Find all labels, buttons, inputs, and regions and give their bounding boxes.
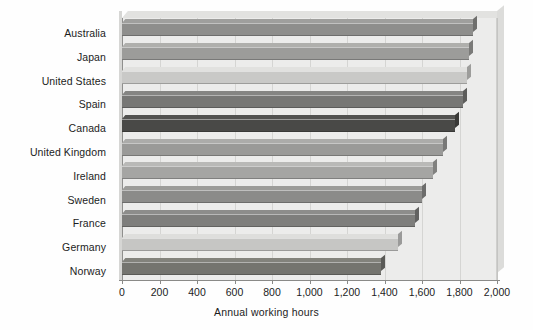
gridline-2000 xyxy=(497,18,498,280)
bar-row xyxy=(122,23,497,36)
x-tick-label-1600: 1,600 xyxy=(409,286,435,298)
bar-japan[interactable] xyxy=(122,47,469,60)
bar-sweden[interactable] xyxy=(122,190,422,203)
y-axis-label-canada: Canada xyxy=(0,123,106,134)
y-axis-label-united-states: United States xyxy=(0,76,106,87)
bar-end-cap xyxy=(469,40,473,56)
bar-row xyxy=(122,95,497,108)
bar-end-cap xyxy=(381,254,385,270)
x-tick-label-800: 800 xyxy=(263,286,281,298)
plot-right-face xyxy=(497,5,504,273)
x-tick-1200 xyxy=(347,280,348,284)
bar-end-cap xyxy=(422,183,426,199)
bar-end-cap xyxy=(443,135,447,151)
bar-end-cap xyxy=(463,88,467,104)
bar-end-cap xyxy=(467,64,471,80)
bar-end-cap xyxy=(473,16,477,32)
x-tick-label-2000: 2,000 xyxy=(484,286,510,298)
x-tick-2000 xyxy=(497,280,498,284)
bar-row xyxy=(122,214,497,227)
bar-end-cap xyxy=(433,159,437,175)
bar-united-kingdom[interactable] xyxy=(122,143,443,156)
x-tick-600 xyxy=(235,280,236,284)
bars-layer xyxy=(122,18,497,280)
y-axis-category-labels: AustraliaJapanUnited StatesSpainCanadaUn… xyxy=(0,22,114,278)
bar-spain[interactable] xyxy=(122,95,463,108)
bar-end-cap xyxy=(415,207,419,223)
x-tick-label-400: 400 xyxy=(188,286,206,298)
bar-canada[interactable] xyxy=(122,119,455,132)
x-tick-1400 xyxy=(385,280,386,284)
y-axis-label-australia: Australia xyxy=(0,28,106,39)
bar-australia[interactable] xyxy=(122,23,473,36)
x-tick-200 xyxy=(160,280,161,284)
bar-row xyxy=(122,143,497,156)
y-axis-label-ireland: Ireland xyxy=(0,171,106,182)
y-axis-label-spain: Spain xyxy=(0,99,106,110)
bar-row xyxy=(122,190,497,203)
x-tick-1600 xyxy=(422,280,423,284)
y-axis-label-united-kingdom: United Kingdom xyxy=(0,147,106,158)
x-tick-label-1400: 1,400 xyxy=(371,286,397,298)
bar-row xyxy=(122,166,497,179)
plot-top-face xyxy=(122,11,503,18)
bar-germany[interactable] xyxy=(122,238,398,251)
x-tick-label-1800: 1,800 xyxy=(446,286,472,298)
plot-area xyxy=(122,18,497,280)
x-tick-400 xyxy=(197,280,198,284)
bar-row xyxy=(122,238,497,251)
bar-row xyxy=(122,71,497,84)
x-tick-1800 xyxy=(460,280,461,284)
x-tick-label-1000: 1,000 xyxy=(296,286,322,298)
y-axis-label-france: France xyxy=(0,218,106,229)
y-axis-label-norway: Norway xyxy=(0,266,106,277)
y-axis-label-japan: Japan xyxy=(0,52,106,63)
x-tick-label-600: 600 xyxy=(226,286,244,298)
y-axis-label-germany: Germany xyxy=(0,242,106,253)
x-axis-title: Annual working hours xyxy=(0,306,533,318)
bar-ireland[interactable] xyxy=(122,166,433,179)
bar-chart: AustraliaJapanUnited StatesSpainCanadaUn… xyxy=(0,0,533,330)
bar-row xyxy=(122,47,497,60)
x-tick-800 xyxy=(272,280,273,284)
y-axis-label-sweden: Sweden xyxy=(0,195,106,206)
x-tick-0 xyxy=(122,280,123,284)
bar-end-cap xyxy=(398,230,402,246)
x-tick-1000 xyxy=(310,280,311,284)
bar-row xyxy=(122,119,497,132)
bar-row xyxy=(122,262,497,275)
bar-united-states[interactable] xyxy=(122,71,467,84)
x-tick-label-0: 0 xyxy=(119,286,125,298)
x-tick-label-200: 200 xyxy=(151,286,169,298)
bar-norway[interactable] xyxy=(122,262,381,275)
x-tick-label-1200: 1,200 xyxy=(334,286,360,298)
bar-france[interactable] xyxy=(122,214,415,227)
bar-end-cap xyxy=(455,111,459,127)
